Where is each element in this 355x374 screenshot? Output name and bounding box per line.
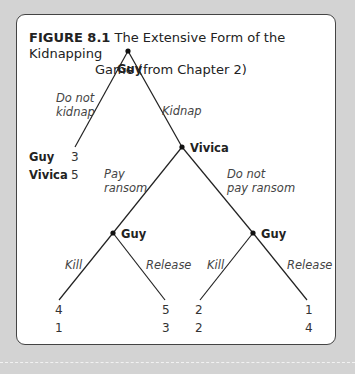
vivica-player-label: Vivica: [190, 141, 229, 155]
move-pay-ransom-1: Pay: [104, 167, 125, 181]
payoff-label-vivica: Vivica: [29, 168, 68, 182]
guy-left-player-label: Guy: [121, 227, 146, 241]
guy-left-node: [110, 230, 115, 235]
move-do-not-pay-2: pay ransom: [227, 181, 295, 195]
move-do-not-kidnap-1: Do not: [56, 91, 94, 105]
root-node: [125, 48, 130, 53]
dashed-divider: [0, 362, 355, 363]
guy-right-player-label: Guy: [261, 227, 286, 241]
move-kidnap: Kidnap: [162, 104, 202, 118]
guy-right-node: [250, 230, 255, 235]
payoff-pay-kill-guy: 4: [55, 303, 63, 317]
payoff-no-kidnap-guy: 3: [71, 150, 79, 164]
payoff-label-guy: Guy: [29, 150, 54, 164]
payoff-nopay-release-vivica: 4: [305, 321, 313, 335]
move-kill-left: Kill: [65, 258, 82, 272]
root-player-label: Guy: [117, 62, 142, 76]
payoff-no-kidnap-vivica: 5: [71, 168, 79, 182]
payoff-nopay-kill-vivica: 2: [195, 321, 203, 335]
game-tree-edges: [0, 0, 355, 374]
move-do-not-pay-1: Do not: [227, 167, 265, 181]
move-release-right: Release: [287, 258, 332, 272]
move-kill-right: Kill: [207, 258, 224, 272]
vivica-node: [179, 144, 184, 149]
payoff-pay-release-guy: 5: [162, 303, 170, 317]
payoff-pay-kill-vivica: 1: [55, 321, 63, 335]
payoff-pay-release-vivica: 3: [162, 321, 170, 335]
move-pay-ransom-2: ransom: [104, 181, 147, 195]
payoff-nopay-release-guy: 1: [305, 303, 313, 317]
move-release-left: Release: [146, 258, 191, 272]
payoff-nopay-kill-guy: 2: [195, 303, 203, 317]
move-do-not-kidnap-2: kidnap: [56, 105, 95, 119]
